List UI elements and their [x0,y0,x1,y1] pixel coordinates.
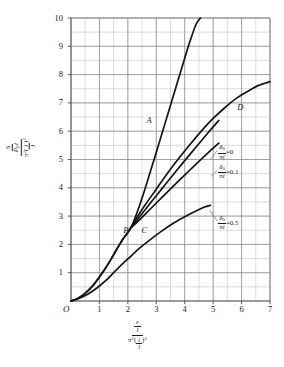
x-tick-label-7: 7 [264,305,276,314]
y-title-exp: 2 [21,138,26,140]
point-label-B: B [123,226,128,235]
i-symbol: i [223,223,225,231]
curve-delta0-over-pi-i = 0.1 [131,143,219,228]
x-title-den-l: l [136,344,142,351]
y-tick-label-4: 4 [49,183,63,192]
x-title-pi-exp: 2 [132,336,134,341]
x-tick-label-2: 2 [122,305,134,314]
annotation-delta0-over-pi-i = 0.5: δ0πi=0.5 [218,215,238,231]
curve-delta0-over-pi-i = 0 [131,120,219,228]
annotation-delta0-over-pi-i = 0.1: δ0πi=0.1 [218,164,238,180]
annotation-delta0-over-pi-i = 0: δ0πi=0 [218,144,233,160]
x-tick-label-1: 1 [93,305,105,314]
annotation-value: 0.5 [230,220,239,227]
y-title-P-sub: E [15,145,20,148]
delta-subscript: 0 [223,218,225,223]
annotation-denominator: πi [218,224,226,231]
curve-label-D: D [237,103,243,112]
annotation-fraction: δ0πi [218,144,226,160]
delta-subscript: 0 [223,167,225,172]
delta-subscript: 0 [223,147,225,152]
x-axis-origin-label: O [63,305,70,314]
i-symbol: i [223,172,225,180]
y-tick-label-10: 10 [49,14,63,23]
leader-delta0-over-pi-i = 0 [211,150,217,158]
y-tick-label-9: 9 [49,42,63,51]
x-tick-label-4: 4 [179,305,191,314]
y-tick-label-1: 1 [49,268,63,277]
annotation-leader-lines [210,150,218,221]
y-title-P: P [12,148,20,152]
x-title-l: l [134,327,140,334]
tick-marks [68,18,270,304]
point-label-C: C [141,226,147,235]
x-title-exp: 2 [144,336,146,341]
x-axis-title: ε l π2( i l )2 [126,318,149,351]
y-title-l: l [12,143,20,145]
y-tick-label-2: 2 [49,240,63,249]
i-symbol: i [223,153,225,161]
annotation-value: 0 [230,149,234,156]
y-tick-label-6: 6 [49,127,63,136]
x-tick-label-6: 6 [236,305,248,314]
annotation-denominator: πi [218,154,226,161]
y-title-den-l: l [30,143,37,149]
annotation-fraction: δ0πi [218,215,226,231]
x-tick-label-5: 5 [207,305,219,314]
y-tick-label-7: 7 [49,98,63,107]
annotation-value: 0.1 [230,169,239,176]
y-axis-title: S PEl π2( i l )2 [4,136,37,159]
annotation-fraction: δ0πi [218,164,226,180]
leader-delta0-over-pi-i = 0.1 [211,170,217,176]
y-title-pi-exp: 2 [21,151,26,153]
figure-container: 12345678910 O1234567 ADBC δ0πi=0δ0πi=0.1… [0,0,284,367]
curve-label-A: A [147,116,152,125]
y-tick-label-3: 3 [49,212,63,221]
y-tick-label-5: 5 [49,155,63,164]
annotation-denominator: πi [218,173,226,180]
y-tick-label-8: 8 [49,70,63,79]
y-title-pi: π [21,153,29,157]
x-tick-label-3: 3 [150,305,162,314]
